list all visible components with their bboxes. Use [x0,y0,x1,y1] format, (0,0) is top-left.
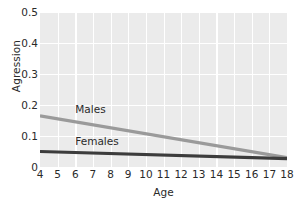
y-tick-label: 0.3 [21,68,38,80]
x-tick-label: 9 [125,168,132,180]
x-tick-label: 17 [263,168,276,180]
x-tick-label: 12 [174,168,187,180]
y-tick-label: 0.4 [21,37,38,49]
x-tick-label: 18 [280,168,293,180]
series-label-females: Females [75,135,118,147]
x-tick-label: 7 [90,168,97,180]
x-tick-label: 14 [210,168,223,180]
x-axis-tick-labels: 4 5 6 7 8 9 10 11 12 13 14 15 16 17 18 [0,168,294,184]
y-tick-label: 0.2 [21,99,38,111]
x-tick-label: 13 [192,168,205,180]
x-tick-label: 11 [157,168,170,180]
x-tick-label: 4 [37,168,44,180]
y-tick-label: 0.5 [21,6,38,18]
x-tick-label: 8 [107,168,114,180]
aggression-by-age-line-chart: Agression 0 0.1 0.2 0.3 0.4 0.5 [0,0,294,208]
x-tick-label: 5 [54,168,61,180]
x-tick-label: 16 [245,168,258,180]
plot-panel: Males Females [40,12,287,167]
series-label-males: Males [75,103,105,115]
x-tick-label: 10 [139,168,152,180]
x-axis-title: Age [40,186,287,198]
x-tick-label: 6 [72,168,79,180]
y-tick-label: 0.1 [21,130,38,142]
x-tick-label: 15 [227,168,240,180]
